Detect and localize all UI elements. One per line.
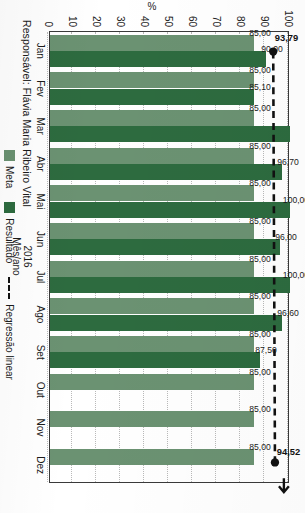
chart-screenshot: Responsável: Flávia Maria Ribeiro Vital … xyxy=(0,0,305,513)
y-axis-tick: 80 xyxy=(235,16,246,27)
x-axis-tick-fev: Fev xyxy=(35,80,46,97)
x-axis-tick-mar: Mar xyxy=(35,118,46,135)
x-axis-tick-jun: Jun xyxy=(35,231,46,247)
x-axis-tick-jan: Jan xyxy=(35,43,46,59)
x-axis-tick-jul: Jul xyxy=(35,270,46,283)
legend-label-meta: Meta xyxy=(4,166,15,188)
x-axis-tick-ago: Ago xyxy=(35,306,46,324)
x-axis-tick-nov: Nov xyxy=(35,419,46,437)
y-axis-title: % xyxy=(148,1,157,12)
legend-label-resultado: Resultado xyxy=(4,218,15,263)
y-axis-tick: 50 xyxy=(163,16,174,27)
y-axis-tick: 70 xyxy=(211,16,222,27)
regression-start-label: 93,79 xyxy=(275,31,298,42)
y-axis-tick: 10 xyxy=(67,16,78,27)
chart-legend: Meta Resultado Regressão linear xyxy=(4,150,15,380)
y-axis-tick: 0 xyxy=(43,21,54,27)
x-axis-tick-mai: Mai xyxy=(35,193,46,209)
x-axis-tick-dez: Dez xyxy=(35,456,46,474)
y-axis-tick: 60 xyxy=(187,16,198,27)
y-axis-tick: 90 xyxy=(259,16,270,27)
meta-swatch-icon xyxy=(4,150,15,161)
dashed-line-icon xyxy=(9,277,11,299)
y-axis-tick: 30 xyxy=(115,16,126,27)
x-axis-year: 2016 xyxy=(22,245,33,267)
chart-figure: Responsável: Flávia Maria Ribeiro Vital … xyxy=(0,0,305,513)
resultado-swatch-icon xyxy=(4,202,15,213)
y-axis-tick: 20 xyxy=(91,16,102,27)
regression-end-label: 94,52 xyxy=(277,446,300,457)
regression-line xyxy=(50,32,288,482)
plot-inner: 100908070605040302010085,0090,00Jan85,00… xyxy=(50,32,288,482)
x-axis-tick-abr: Abr xyxy=(35,156,46,172)
legend-item-resultado: Resultado xyxy=(4,202,15,263)
y-axis-tick: 100 xyxy=(283,10,294,27)
x-axis-tick-out: Out xyxy=(35,382,46,398)
x-axis-tick-set: Set xyxy=(35,345,46,360)
gridline xyxy=(47,32,48,482)
y-axis-tick: 40 xyxy=(139,16,150,27)
rotated-chart-container: Responsável: Flávia Maria Ribeiro Vital … xyxy=(0,0,305,513)
legend-item-regressao: Regressão linear xyxy=(4,277,15,380)
legend-label-regressao: Regressão linear xyxy=(4,304,15,380)
legend-item-meta: Meta xyxy=(4,150,15,188)
plot-area: 100908070605040302010085,0090,00Jan85,00… xyxy=(49,31,289,483)
